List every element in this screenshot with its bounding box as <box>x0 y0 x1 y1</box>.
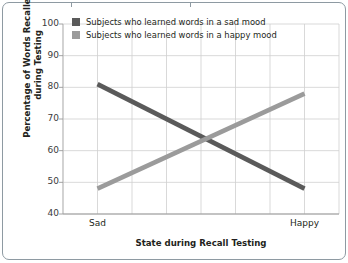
chart-legend: Subjects who learned words in a sad mood… <box>72 17 277 40</box>
y-axis-tick-label: 40 <box>35 208 59 218</box>
legend-swatch-icon <box>72 18 80 26</box>
legend-swatch-icon <box>72 31 80 39</box>
x-axis-title: State during Recall Testing <box>63 238 339 248</box>
y-axis-title: Percentage of Words Recalled during Test… <box>20 0 46 160</box>
x-axis-tick-label: Happy <box>275 218 335 228</box>
legend-item-label: Subjects who learned words in a happy mo… <box>86 30 277 40</box>
legend-item[interactable]: Subjects who learned words in a sad mood <box>72 17 277 27</box>
y-axis-title-line1: Percentage of Words Recalled <box>22 0 33 138</box>
legend-item-label: Subjects who learned words in a sad mood <box>86 17 266 27</box>
y-axis-ticks <box>59 24 63 214</box>
x-axis-tick-label: Sad <box>68 218 128 228</box>
y-axis-title-line2: during Testing <box>33 30 44 100</box>
y-axis-tick-label: 50 <box>35 176 59 186</box>
legend-item[interactable]: Subjects who learned words in a happy mo… <box>72 30 277 40</box>
